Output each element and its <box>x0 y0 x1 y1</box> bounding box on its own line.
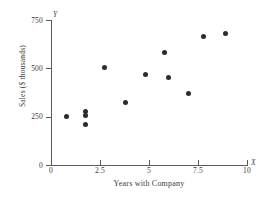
y-axis-tick-label: 250 <box>3 113 43 121</box>
x-axis-tick <box>247 160 248 165</box>
x-axis-title: Years with Company <box>51 180 247 188</box>
plot-area <box>51 20 247 165</box>
data-point <box>83 122 88 127</box>
y-axis-variable-symbol: Y <box>53 10 57 19</box>
data-point <box>166 75 171 80</box>
data-point <box>223 31 228 36</box>
scatter-plot-figure: Y X Sales ($ thousands) Years with Compa… <box>0 0 275 201</box>
data-point <box>143 72 148 77</box>
data-point <box>123 100 128 105</box>
x-axis-tick-label: 0 <box>36 167 66 175</box>
y-axis-tick-label: 500 <box>3 65 43 73</box>
y-axis-title: Sales ($ thousands) <box>19 11 27 141</box>
x-axis-tick-label: 7.5 <box>183 167 213 175</box>
x-axis-variable-symbol: X <box>251 158 256 167</box>
x-axis-tick-label: 10 <box>232 167 262 175</box>
x-axis-tick-label: 5 <box>134 167 164 175</box>
x-axis-tick-label: 2.5 <box>85 167 115 175</box>
data-point <box>186 91 191 96</box>
data-point <box>83 113 88 118</box>
y-axis-tick-label: 750 <box>3 17 43 25</box>
